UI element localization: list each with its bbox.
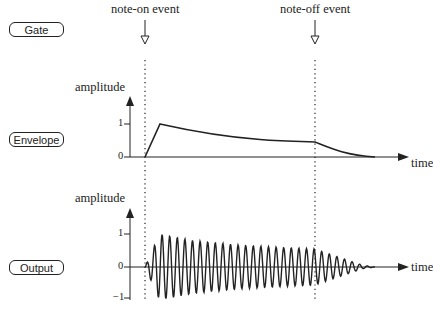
diagram-graphics [0,0,433,322]
note-on-arrow-icon [141,20,149,44]
envelope-axes [124,96,409,161]
x-axis-arrow-icon [398,263,409,271]
y-axis-arrow-icon [126,96,134,106]
envelope-curve [145,124,375,157]
adsr-diagram: Gate Envelope Output note-on event note-… [0,0,433,322]
x-axis-arrow-icon [398,153,409,161]
y-axis-arrow-icon [126,208,134,218]
note-off-arrow-icon [311,20,319,44]
